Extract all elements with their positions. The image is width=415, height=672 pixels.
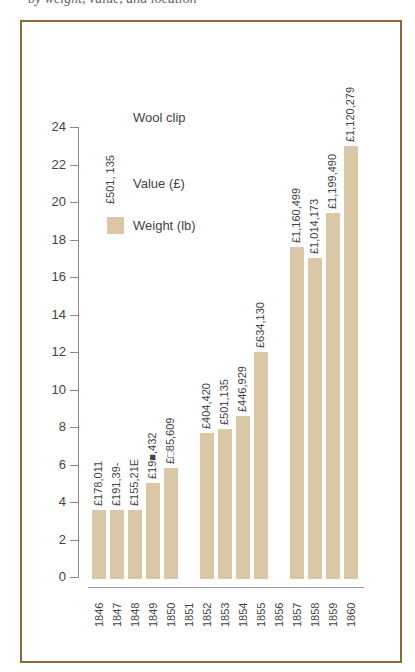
bar-chart: Wool clip £501, 135 Value (£) Weight (lb…	[0, 0, 415, 672]
y-tick-label: 6	[36, 457, 66, 472]
bar-1858	[308, 258, 322, 579]
legend-value-label: Value (£)	[133, 176, 185, 191]
y-tick-label: 18	[36, 232, 66, 247]
bar-value-label: £191,39-	[110, 462, 122, 505]
bar-1860	[344, 146, 358, 579]
chart-title: Wool clip	[133, 110, 186, 125]
bar-1847	[110, 510, 124, 580]
y-tick-label: 10	[36, 382, 66, 397]
y-tick	[70, 502, 79, 503]
bar-value-label: £1,014,173	[308, 199, 320, 254]
x-axis	[88, 587, 364, 588]
y-tick	[70, 315, 79, 316]
y-tick	[70, 127, 79, 128]
x-tick-label: 1848	[129, 603, 141, 627]
y-tick	[70, 240, 79, 241]
y-tick-label: 0	[36, 569, 66, 584]
y-tick-label: 4	[36, 494, 66, 509]
bar-1857	[290, 247, 304, 579]
bar-1846	[92, 510, 106, 580]
bar-value-label: £155,21E	[128, 458, 140, 505]
x-tick-label: 1849	[147, 603, 159, 627]
legend-value-sample: £501, 135	[104, 155, 116, 204]
y-tick-label: 24	[36, 119, 66, 134]
bar-value-label: £19■,432	[146, 433, 158, 479]
bar-value-label: £178,011	[92, 460, 104, 505]
bar-value-label: £404,420	[200, 383, 212, 429]
y-tick	[70, 577, 79, 578]
y-tick-label: 14	[36, 307, 66, 322]
bar-value-label: £1,160,499	[290, 188, 302, 243]
y-tick-label: 16	[36, 269, 66, 284]
bar-value-label: £1,199,490	[326, 154, 338, 209]
x-tick-label: 1860	[345, 603, 357, 627]
x-tick-label: 1850	[165, 603, 177, 627]
x-tick-label: 1857	[291, 603, 303, 627]
y-tick-label: 22	[36, 157, 66, 172]
bar-1852	[200, 433, 214, 579]
bar-1853	[218, 429, 232, 579]
legend-weight-swatch	[107, 217, 124, 234]
bar-value-label: £1,120,279	[344, 87, 356, 142]
bar-value-label: £□85,609	[164, 418, 176, 464]
bar-1848	[128, 510, 142, 580]
y-tick	[70, 352, 79, 353]
x-tick-label: 1858	[309, 603, 321, 627]
bar-1854	[236, 416, 250, 579]
x-tick-label: 1859	[327, 603, 339, 627]
y-tick-label: 12	[36, 344, 66, 359]
x-tick-label: 1847	[111, 603, 123, 627]
y-tick-label: 8	[36, 419, 66, 434]
x-tick-label: 1855	[255, 603, 267, 627]
y-tick	[70, 465, 79, 466]
y-tick	[70, 277, 79, 278]
bar-value-label: £446,929	[236, 366, 248, 412]
y-tick	[70, 427, 79, 428]
bar-1849	[146, 483, 160, 579]
bar-value-label: £501,135	[218, 379, 230, 425]
bar-value-label: £634,130	[254, 302, 266, 348]
y-tick-label: 20	[36, 194, 66, 209]
y-tick	[70, 390, 79, 391]
y-tick	[70, 165, 79, 166]
y-tick	[70, 540, 79, 541]
bar-1850	[164, 468, 178, 579]
x-tick-label: 1854	[237, 603, 249, 627]
y-tick	[70, 202, 79, 203]
bar-1855	[254, 352, 268, 579]
x-tick-label: 1851	[183, 603, 195, 627]
x-tick-label: 1852	[201, 603, 213, 627]
y-tick-label: 2	[36, 532, 66, 547]
bar-1859	[326, 213, 340, 579]
x-tick-label: 1853	[219, 603, 231, 627]
x-tick-label: 1856	[273, 603, 285, 627]
x-tick-label: 1846	[93, 603, 105, 627]
legend-weight-label: Weight (lb)	[133, 218, 196, 233]
